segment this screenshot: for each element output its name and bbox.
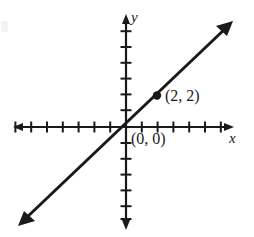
y-axis-down-arrowhead	[122, 220, 130, 230]
point-label-2-2: (2, 2)	[165, 88, 200, 104]
x-axis-label: x	[229, 131, 236, 146]
point-label-0-0: (0, 0)	[131, 131, 166, 147]
y-axis-up-arrowhead	[122, 14, 130, 24]
point-marker-2-2	[153, 91, 161, 99]
y-axis-label: y	[131, 10, 138, 25]
graph-figure: (2, 2) (0, 0) x y	[0, 0, 254, 237]
coordinate-plane	[0, 0, 254, 237]
